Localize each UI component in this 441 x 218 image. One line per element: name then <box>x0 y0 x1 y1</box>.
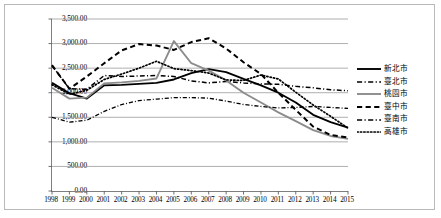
legend-item-桃園市[interactable]: 桃園市 <box>357 88 437 101</box>
legend-label: 新北市 <box>384 63 407 76</box>
x-axis-tick-label: 2015 <box>335 196 359 204</box>
legend-swatch-icon <box>357 90 381 98</box>
legend-item-臺南市[interactable]: 臺南市 <box>357 113 437 126</box>
legend-swatch-icon <box>357 103 381 111</box>
legend-item-臺北市[interactable]: 臺北市 <box>357 76 437 89</box>
legend-item-臺中市[interactable]: 臺中市 <box>357 101 437 114</box>
chart-screenshot: 3,500.003,000.002,500.002,000.001,500.00… <box>0 0 441 218</box>
legend-item-高雄市[interactable]: 高雄市 <box>357 126 437 139</box>
legend-label: 桃園市 <box>384 88 407 101</box>
legend-label: 臺北市 <box>384 76 407 89</box>
legend-label: 臺中市 <box>384 101 407 114</box>
series-line-臺中市 <box>52 38 348 137</box>
legend-swatch-icon <box>357 65 381 73</box>
legend-label: 高雄市 <box>384 126 407 139</box>
chart-frame: 3,500.003,000.002,500.002,000.001,500.00… <box>4 4 435 210</box>
legend-label: 臺南市 <box>384 113 407 126</box>
series-canvas <box>52 19 348 191</box>
legend-swatch-icon <box>357 116 381 124</box>
series-line-桃園市 <box>52 41 348 139</box>
legend-swatch-icon <box>357 128 381 136</box>
legend-swatch-icon <box>357 78 381 86</box>
chart-legend: 新北市臺北市桃園市臺中市臺南市高雄市 <box>357 63 437 139</box>
plot-area <box>51 19 348 192</box>
legend-item-新北市[interactable]: 新北市 <box>357 63 437 76</box>
